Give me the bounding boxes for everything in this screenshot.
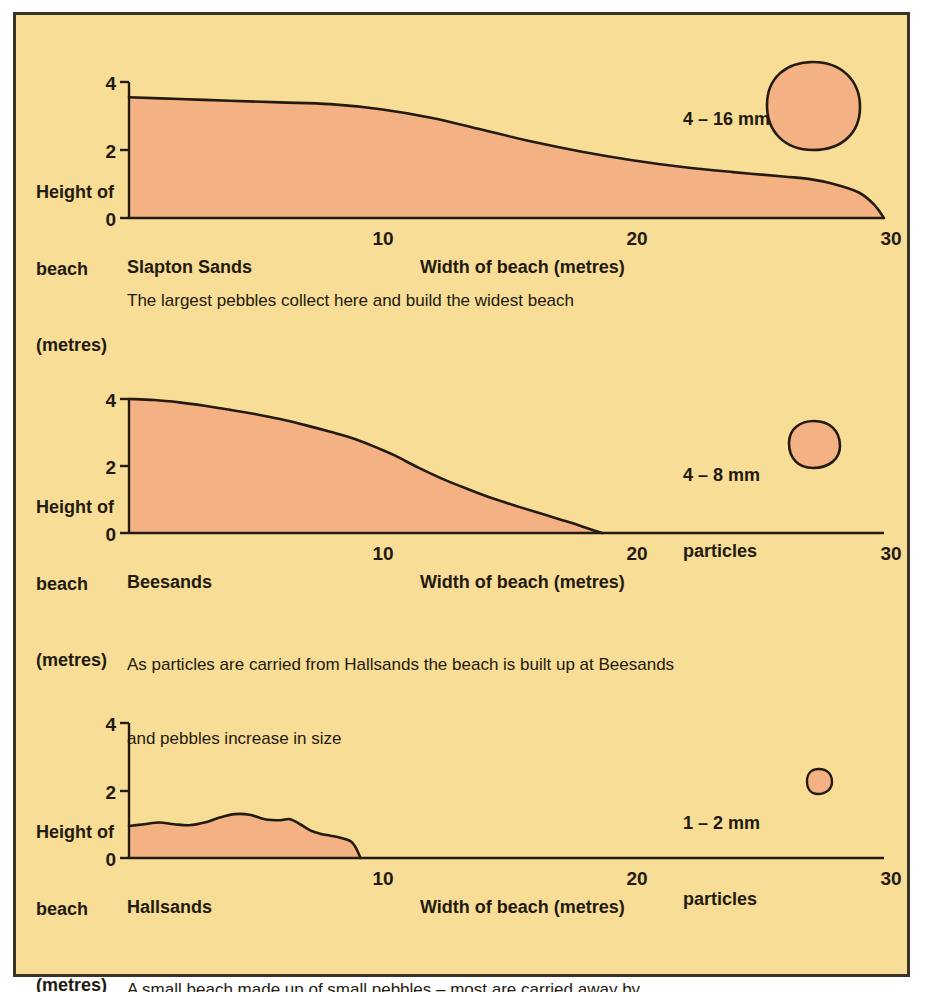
chart-3-group — [120, 723, 884, 858]
chart-1-group — [120, 62, 884, 218]
beach-profile-figure: Height of beach (metres) 4 2 0 10 20 30 … — [0, 0, 926, 992]
chart-1-pebble-icon — [767, 62, 860, 150]
chart-3-pebble-icon — [807, 769, 832, 794]
chart-2-beach-profile-area — [129, 399, 602, 533]
chart-2-pebble-icon — [789, 421, 840, 468]
charts-drawing-layer — [0, 0, 926, 992]
chart-2-group — [120, 399, 884, 533]
